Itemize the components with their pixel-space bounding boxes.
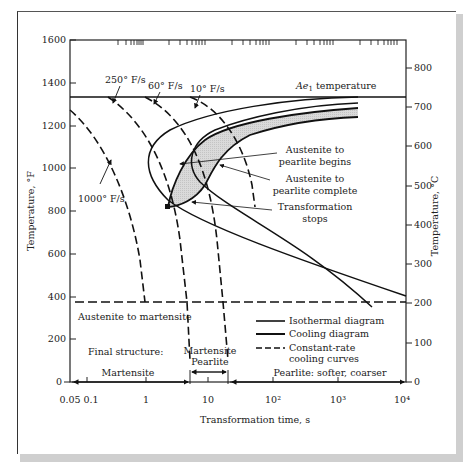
legend-constant-2: cooling curves <box>289 353 359 364</box>
annotation-begins-1: Austenite to <box>285 144 345 155</box>
final-structure-title: Final structure: <box>88 346 163 357</box>
curve-1000F <box>70 110 145 302</box>
right-tick-label: 100 <box>414 337 432 348</box>
x-tick-label: 1 <box>143 394 149 405</box>
annotation-begins-2: pearlite begins <box>279 156 351 167</box>
annotation-stops-2: stops <box>302 213 327 224</box>
x-tick-label: 0.1 <box>83 394 98 405</box>
right-tick-label: 800 <box>414 62 432 73</box>
left-axis-title: Temperature, °F <box>25 171 36 251</box>
right-axis-title: Temperature, °C <box>429 176 440 256</box>
martensite-line-label: Austenite to martensite <box>77 311 192 322</box>
bottom-axis-labels: 0.05 0.1 1 10 10² 10³ 10⁴ <box>59 394 410 405</box>
right-tick-label: 300 <box>414 258 432 269</box>
x-tick-label: 0.05 <box>59 394 80 405</box>
cct-diagram: 1600 1400 1200 1000 800 600 400 200 0 Te… <box>0 0 471 471</box>
right-tick-label: 600 <box>414 140 432 151</box>
top-ticks <box>118 40 397 45</box>
x-tick-label: 10² <box>265 394 281 405</box>
final-pearlite: Pearlite: softer, coarser <box>274 367 387 378</box>
legend-constant-1: Constant-rate <box>289 342 356 353</box>
left-tick-label: 800 <box>48 205 66 216</box>
final-mp-2: Pearlite <box>191 356 229 367</box>
annotation-complete-1: Austenite to <box>285 173 345 184</box>
legend-isothermal: Isothermal diagram <box>289 315 384 326</box>
left-tick-label: 200 <box>48 333 66 344</box>
x-tick-label: 10⁴ <box>394 394 410 405</box>
legend-cooling: Cooling diagram <box>289 328 369 339</box>
rate-label-250: 250° F/s <box>105 74 146 85</box>
left-tick-label: 1600 <box>42 34 66 45</box>
x-tick-label: 10 <box>202 394 214 405</box>
left-tick-label: 400 <box>48 291 66 302</box>
right-axis-ticks <box>406 68 412 382</box>
rate-label-10: 10° F/s <box>190 83 225 94</box>
x-tick-label: 10³ <box>330 394 346 405</box>
right-tick-label: 200 <box>414 297 432 308</box>
final-mp-1: Martensite <box>184 345 237 356</box>
left-tick-label: 1200 <box>42 120 66 131</box>
rate-label-60: 60° F/s <box>148 80 183 91</box>
final-martensite: Martensite <box>102 367 155 378</box>
annotation-stops-1: Transformation <box>278 201 353 212</box>
left-tick-label: 600 <box>48 248 66 259</box>
legend: Isothermal diagram Cooling diagram Const… <box>256 315 384 364</box>
left-tick-label: 1000 <box>42 162 66 173</box>
transformation-stop-marker <box>165 204 170 209</box>
x-axis-title: Transformation time, s <box>200 414 310 425</box>
right-tick-label: 0 <box>414 376 420 387</box>
annotation-complete-2: pearlite complete <box>273 185 358 196</box>
right-tick-label: 700 <box>414 101 432 112</box>
left-axis-labels: 1600 1400 1200 1000 800 600 400 200 0 <box>42 34 66 387</box>
ae1-label: Ae1 temperature <box>295 80 377 93</box>
left-tick-label: 0 <box>56 376 62 387</box>
rate-label-1000: 1000° F/s <box>78 193 125 204</box>
left-tick-label: 1400 <box>42 77 66 88</box>
annotation-labels: Austenite to pearlite begins Austenite t… <box>273 144 358 224</box>
